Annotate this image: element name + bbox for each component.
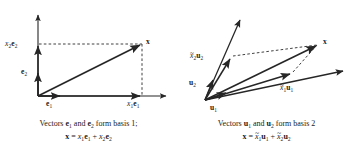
vector-basis-figure: x2e2 e2 e1 x1e1 x ~x2u2 u2 u1 ~x1u1 x Ve…: [0, 0, 355, 158]
right-u1-axis: [205, 71, 343, 100]
right-x-point-label: x: [323, 38, 327, 46]
left-x-tick-label: x1e1: [127, 100, 139, 108]
right-caption-line-1: Vectors u1 and u2 form basis 2: [178, 119, 355, 130]
left-e2-label: e2: [21, 68, 27, 76]
right-u1-label: u1: [210, 104, 217, 112]
right-lower-projection: [293, 45, 317, 72]
left-x-point-label: x: [146, 38, 150, 46]
right-x1u1-label: ~x1u1: [280, 84, 293, 92]
left-x-vector: [38, 45, 140, 96]
right-caption-line-2: x = ~x1u1 + ~x2u2: [178, 132, 355, 143]
left-caption-line-1: Vectors e1 and e2 form basis 1;: [0, 119, 177, 130]
right-u2-label: u2: [189, 79, 196, 87]
right-upper-projection: [233, 45, 317, 56]
left-y-tick-label: x2e2: [5, 40, 17, 48]
left-caption-line-2: x = x1e1 + x2e2: [0, 132, 177, 143]
left-e1-label: e1: [46, 100, 52, 108]
left-panel-group: [38, 15, 166, 96]
right-panel-group: [205, 20, 343, 100]
right-x2u2-label: ~x2u2: [190, 52, 203, 60]
